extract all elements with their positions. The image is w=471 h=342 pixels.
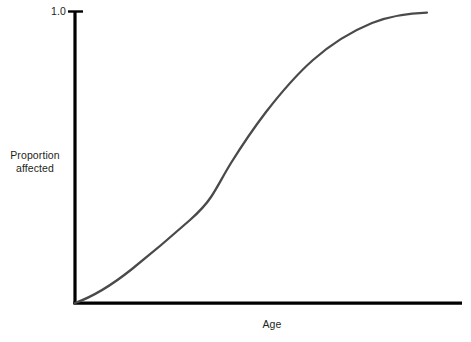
y-axis-title-line1: Proportion bbox=[10, 149, 59, 161]
x-axis-title: Age bbox=[222, 318, 322, 331]
y-axis-title: Proportionaffected bbox=[2, 149, 68, 174]
plot-area bbox=[0, 0, 471, 342]
y-axis-title-line2: affected bbox=[16, 162, 54, 174]
y-axis-tick-label-top: 1.0 bbox=[20, 5, 66, 18]
chart-figure: 1.0 Proportionaffected Age bbox=[0, 0, 471, 342]
data-curve-proportion-affected bbox=[75, 13, 427, 303]
